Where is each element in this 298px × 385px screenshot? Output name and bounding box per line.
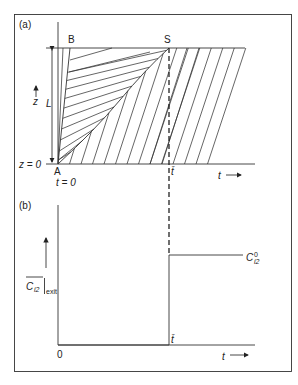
characteristic-line-ab: [58, 48, 70, 164]
characteristic-line-lower: [173, 48, 211, 164]
characteristic-line-a-steep: [58, 48, 63, 164]
characteristic-line-upper: [62, 107, 114, 129]
level-label-sub: i2: [254, 258, 260, 265]
length-label: L: [46, 98, 52, 109]
characteristic-line-lower: [196, 48, 234, 164]
z-axis-label: z: [32, 96, 38, 107]
characteristic-line-upper: [70, 48, 112, 60]
figure-frame: [15, 15, 292, 372]
t-bar-label-a: t̄: [171, 166, 175, 177]
characteristic-line-lower: [116, 71, 146, 164]
breakthrough-step-curve: [58, 255, 243, 345]
characteristic-lines: [58, 48, 245, 164]
origin-label: 0: [57, 349, 63, 360]
t-axis-label-a: t: [218, 170, 222, 181]
y-axis-label-sub: i2: [34, 286, 40, 293]
characteristic-line-lower: [185, 48, 223, 164]
t-zero-label: t = 0: [56, 177, 76, 188]
characteristic-line-lower: [139, 48, 177, 164]
y-axis-label-main: C: [26, 281, 34, 292]
point-a-label: A: [54, 166, 61, 177]
breakthrough-diagram: (a) L z z = 0 A t = 0 B S t̄ t (b) C i2 …: [0, 0, 298, 385]
point-b-label: B: [68, 34, 75, 45]
panel-b-label: (b): [19, 200, 31, 211]
level-label-sup: 0: [254, 251, 258, 258]
z-zero-label: z = 0: [18, 159, 41, 170]
y-axis-label-exit: exit: [46, 288, 57, 295]
panel-a-label: (a): [19, 19, 31, 30]
level-label-main: C: [246, 252, 254, 263]
characteristic-line-upper: [58, 140, 82, 160]
characteristic-line-upper: [69, 52, 150, 72]
characteristic-line-lower: [162, 48, 199, 164]
characteristic-line-lower: [127, 53, 163, 164]
t-bar-label-b: t̄: [171, 334, 175, 345]
characteristic-line-lower: [208, 48, 246, 164]
point-s-label: S: [164, 34, 171, 45]
t-axis-label-b: t: [222, 351, 226, 362]
